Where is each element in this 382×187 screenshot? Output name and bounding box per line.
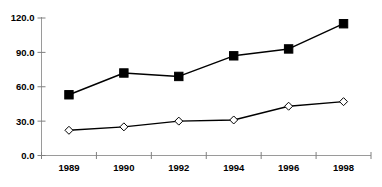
chart-container: 0.030.060.090.0120.0 1989199019921994199… — [0, 0, 382, 187]
data-point-square — [65, 91, 73, 99]
x-tick-label: 1990 — [113, 162, 134, 173]
data-point-square — [120, 69, 128, 77]
x-tick-label: 1989 — [58, 162, 79, 173]
data-point-square — [339, 20, 347, 28]
data-point-square — [175, 72, 183, 80]
x-tick-label: 1998 — [333, 162, 354, 173]
y-tick-label: 0.0 — [21, 150, 34, 161]
x-tick-label: 1996 — [278, 162, 299, 173]
y-tick-label: 30.0 — [16, 116, 35, 127]
data-point-square — [230, 52, 238, 60]
x-tick-label: 1992 — [168, 162, 189, 173]
y-tick-label: 90.0 — [16, 47, 35, 58]
x-tick-label: 1994 — [223, 162, 245, 173]
data-point-square — [284, 45, 292, 53]
chart-background — [0, 0, 382, 187]
y-tick-label: 120.0 — [11, 12, 35, 23]
line-chart-plot: 0.030.060.090.0120.0 1989199019921994199… — [0, 0, 382, 187]
y-tick-label: 60.0 — [16, 81, 35, 92]
